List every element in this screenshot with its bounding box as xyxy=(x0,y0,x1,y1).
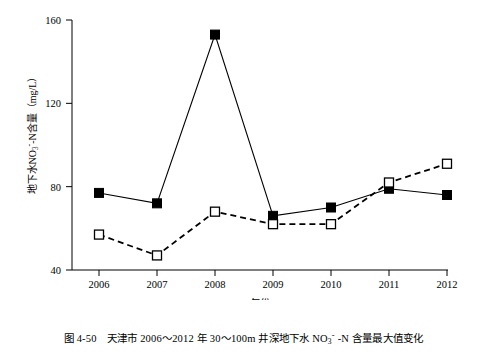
data-point xyxy=(443,191,452,200)
x-tick-label: 2009 xyxy=(263,279,284,290)
series-oct-markers xyxy=(95,159,452,260)
x-axis-title: 年份 xyxy=(250,297,271,300)
figure-caption-pre: 天津市 2006～2012 年 30～100m 井深地下水 NO xyxy=(107,333,328,344)
y-tick-labels: 40 80 120 160 xyxy=(45,15,61,276)
figure-number: 图 4-50 xyxy=(64,333,97,344)
data-point xyxy=(153,199,162,208)
data-point xyxy=(211,30,220,39)
data-point xyxy=(269,220,278,229)
x-tick-label: 2007 xyxy=(147,279,168,290)
data-point xyxy=(95,188,104,197)
data-point xyxy=(385,178,394,187)
y-tick-label: 80 xyxy=(51,182,62,193)
x-tick-label: 2011 xyxy=(379,279,400,290)
x-tick-label: 2010 xyxy=(321,279,342,290)
data-point xyxy=(327,220,336,229)
series-may-markers xyxy=(95,30,452,220)
figure-page: 40 80 120 160 2006 2007 2008 2009 2010 2… xyxy=(0,0,487,362)
series-may-max xyxy=(95,30,452,220)
data-point xyxy=(443,159,452,168)
y-tick-label: 120 xyxy=(45,98,61,109)
data-point xyxy=(95,230,104,239)
x-tick-label: 2008 xyxy=(205,279,226,290)
series-oct-max xyxy=(95,159,452,260)
y-axis-title-minus: - xyxy=(25,144,34,147)
y-axis-title-post: -N含量（mg/L） xyxy=(27,72,38,144)
axes xyxy=(66,20,448,276)
figure-caption: 图 4-50天津市 2006～2012 年 30～100m 井深地下水 NO3-… xyxy=(0,330,487,346)
series-may-line xyxy=(99,35,447,216)
y-tick-label: 160 xyxy=(45,15,61,26)
data-point xyxy=(327,203,336,212)
x-tick-label: 2006 xyxy=(89,279,110,290)
y-tick-label: 40 xyxy=(51,265,62,276)
y-axis-title-sub: 3 xyxy=(32,146,40,150)
x-tick-label: 2012 xyxy=(437,279,458,290)
y-axis-title-pre: 地下水NO xyxy=(27,150,38,194)
data-point xyxy=(153,251,162,260)
y-axis-title: 地下水NO3--N含量（mg/L） xyxy=(24,38,40,228)
data-point xyxy=(211,207,220,216)
x-tick-labels: 2006 2007 2008 2009 2010 2011 2012 xyxy=(89,279,458,290)
chart-container: 40 80 120 160 2006 2007 2008 2009 2010 2… xyxy=(0,0,487,300)
series-oct-line xyxy=(99,164,447,256)
figure-caption-post: -N 含量最大值变化 xyxy=(335,333,424,344)
line-chart: 40 80 120 160 2006 2007 2008 2009 2010 2… xyxy=(0,0,487,300)
data-point xyxy=(269,211,278,220)
